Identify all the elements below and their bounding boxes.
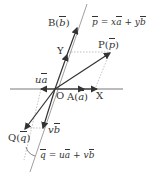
y-axis-label: Y <box>57 46 64 56</box>
vector-q <box>25 89 55 129</box>
pointer-curve <box>26 147 35 156</box>
x-axis-label: X <box>96 91 103 101</box>
point-q-label: Q(q) <box>8 133 30 143</box>
equation-q: q = ua + vb <box>40 151 94 160</box>
point-b-label: B(b) <box>48 18 70 28</box>
vector-b <box>67 28 77 55</box>
origin-label: O <box>56 91 64 101</box>
vector-p <box>55 53 110 89</box>
y-axis <box>30 4 87 172</box>
component-ua-label: ua <box>35 75 47 85</box>
point-p-label: P(p) <box>98 40 119 50</box>
equation-p: p = xa + yb <box>92 18 146 27</box>
component-vb-label: vb <box>48 125 60 135</box>
point-a-label: A(a) <box>67 92 88 102</box>
vector-yb <box>55 55 67 89</box>
